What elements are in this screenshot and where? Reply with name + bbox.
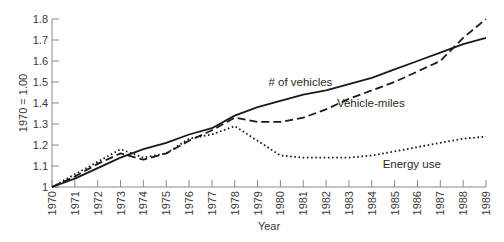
x-tick-label: 1987 (434, 191, 446, 215)
x-axis-title: Year (258, 220, 281, 232)
y-tick-label: 1.1 (33, 160, 48, 172)
y-tick-label: 1.3 (33, 118, 48, 130)
x-tick-label: 1984 (366, 191, 378, 215)
x-tick-label: 1989 (480, 191, 492, 215)
x-axis: 1970197119721973197419751976197719781979… (46, 180, 492, 215)
x-tick-label: 1983 (343, 191, 355, 215)
x-tick-label: 1988 (457, 191, 469, 215)
series-energy-use (52, 126, 486, 187)
x-tick-label: 1976 (183, 191, 195, 215)
y-tick-label: 1.7 (33, 34, 48, 46)
x-tick-label: 1985 (389, 191, 401, 215)
x-tick-label: 1971 (69, 191, 81, 215)
x-tick-label: 1974 (137, 191, 149, 215)
x-tick-label: 1979 (252, 191, 264, 215)
y-tick-label: 1.8 (33, 13, 48, 25)
series-label: Vehicle-miles (337, 97, 405, 109)
x-tick-label: 1986 (411, 191, 423, 215)
x-tick-label: 1975 (160, 191, 172, 215)
x-tick-label: 1978 (229, 191, 241, 215)
y-tick-label: 1.2 (33, 139, 48, 151)
x-tick-label: 1972 (92, 191, 104, 215)
x-tick-label: 1981 (297, 191, 309, 215)
x-tick-label: 1977 (206, 191, 218, 215)
x-tick-label: 1973 (115, 191, 127, 215)
y-axis: 11.11.21.31.41.51.61.71.8 (33, 13, 59, 193)
line-chart: 11.11.21.31.41.51.61.71.8 19701971197219… (0, 0, 504, 242)
y-axis-title: 1970 = 1.00 (17, 74, 29, 132)
y-tick-label: 1.4 (33, 97, 48, 109)
series-label: # of vehicles (268, 76, 332, 88)
y-tick-label: 1.5 (33, 76, 48, 88)
series-label: Energy use (383, 158, 441, 170)
x-tick-label: 1980 (274, 191, 286, 215)
labels-layer: # of vehiclesVehicle-milesEnergy use (268, 76, 440, 170)
y-tick-label: 1.6 (33, 55, 48, 67)
x-tick-label: 1982 (320, 191, 332, 215)
x-tick-label: 1970 (46, 191, 58, 215)
